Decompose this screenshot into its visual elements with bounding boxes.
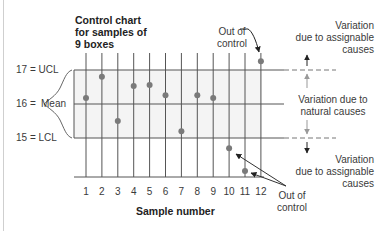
annotation-line: causes [262,44,374,56]
data-point [226,145,232,151]
annotation-line: due to assignable [262,32,374,44]
annotation-line: Variation [262,20,374,32]
x-tick-label: 9 [205,186,221,198]
data-point [210,95,216,101]
annotation-assignable-bottom: Variation due to assignable causes [262,154,374,190]
lcl-label: 15 = LCL [16,132,57,144]
data-point [178,128,184,134]
ucl-label: 17 = UCL [16,64,59,76]
annotation-line: due to assignable [262,166,374,178]
annotation-line: Out of [210,26,254,38]
annotation-line: natural causes [286,106,380,118]
data-point [194,92,200,98]
x-tick-label: 1 [78,186,94,198]
annotation-line: control [272,202,312,214]
annotation-assignable-top: Variation due to assignable causes [262,20,374,56]
data-point [131,83,137,89]
annotation-out-of-control-bottom: Out of control [272,190,312,214]
x-tick-label: 2 [94,186,110,198]
data-point [115,118,121,124]
data-point [242,168,248,174]
x-axis-label: Sample number [136,205,215,217]
annotation-line: Variation due to [286,94,380,106]
annotation-line: causes [262,178,374,190]
mean-label: Mean [41,98,66,110]
data-point [83,95,89,101]
annotation-natural-causes: Variation due to natural causes [286,94,380,118]
mean-label-prefix: 16 = [16,98,36,110]
annotation-line: Out of [272,190,312,202]
x-tick-label: 11 [237,186,253,198]
data-point [163,92,169,98]
x-tick-label: 6 [158,186,174,198]
data-point [147,82,153,88]
x-tick-label: 7 [173,186,189,198]
x-tick-label: 8 [189,186,205,198]
x-tick-label: 4 [126,186,142,198]
x-tick-label: 10 [221,186,237,198]
x-tick-label: 3 [110,186,126,198]
annotation-line: control [210,38,254,50]
data-point [99,74,105,80]
x-tick-label: 5 [142,186,158,198]
annotation-line: Variation [262,154,374,166]
annotation-out-of-control-top: Out of control [210,26,254,50]
data-point [258,58,264,64]
